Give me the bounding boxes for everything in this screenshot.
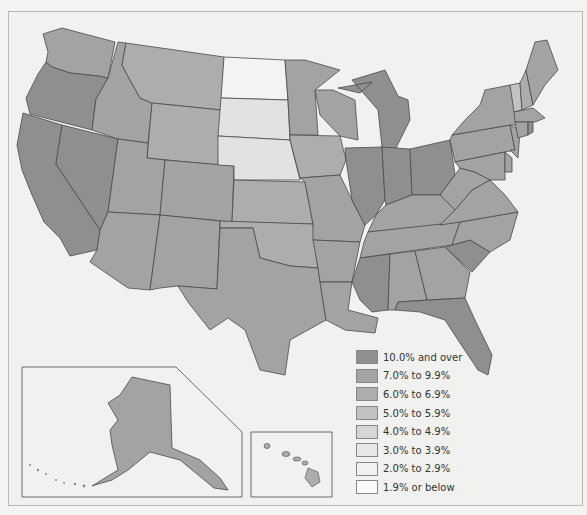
us-map [0,0,587,515]
legend-swatch [356,425,378,439]
state-WY[interactable] [147,103,221,165]
legend-item: 2.0% to 2.9% [356,460,476,479]
hawaii-inset-border [251,432,332,497]
legend-item: 4.0% to 4.9% [356,422,476,441]
legend-label: 5.0% to 5.9% [383,408,450,419]
state-AK[interactable] [92,377,228,490]
legend-item: 7.0% to 9.9% [356,367,476,386]
legend-label: 1.9% or below [383,482,455,493]
state-SD[interactable] [218,98,290,140]
aleutian-islands [29,464,85,487]
legend-swatch [356,350,378,364]
state-CO[interactable] [160,160,234,222]
state-AR[interactable] [313,240,360,282]
legend-swatch [356,443,378,457]
state-IN[interactable] [382,147,412,205]
state-DE[interactable] [505,152,512,172]
legend-swatch [356,369,378,383]
state-ND[interactable] [221,57,288,100]
legend-item: 10.0% and over [356,348,476,367]
legend-label: 3.0% to 3.9% [383,445,450,456]
state-ME[interactable] [526,40,558,105]
state-RI[interactable] [528,122,533,135]
legend-item: 6.0% to 6.9% [356,385,476,404]
legend-label: 10.0% and over [383,352,462,363]
legend-item: 1.9% or below [356,478,476,497]
legend-item: 5.0% to 5.9% [356,404,476,423]
state-MS[interactable] [352,254,390,312]
legend-label: 6.0% to 6.9% [383,389,450,400]
legend-swatch [356,480,378,494]
legend-label: 4.0% to 4.9% [383,426,450,437]
state-NM[interactable] [150,215,220,290]
legend-swatch [356,406,378,420]
state-KS[interactable] [232,180,313,224]
legend: 10.0% and over 7.0% to 9.9% 6.0% to 6.9%… [356,348,476,497]
legend-item: 3.0% to 3.9% [356,441,476,460]
legend-label: 2.0% to 2.9% [383,463,450,474]
state-IA[interactable] [290,135,346,178]
legend-label: 7.0% to 9.9% [383,370,450,381]
legend-swatch [356,387,378,401]
legend-swatch [356,462,378,476]
state-WI[interactable] [315,90,358,140]
state-HI[interactable] [264,444,320,488]
